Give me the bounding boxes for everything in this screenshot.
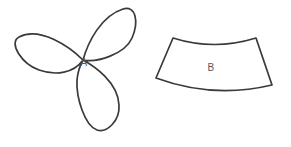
- shapes-diagram: A B: [0, 0, 291, 147]
- figure-canvas: A B: [0, 0, 291, 147]
- trefoil-shape-a: [15, 8, 136, 130]
- shape-b-label: B: [208, 62, 215, 73]
- shape-b-group: B: [156, 38, 272, 91]
- shape-a-group: A: [15, 8, 136, 130]
- shape-a-label: A: [81, 57, 88, 68]
